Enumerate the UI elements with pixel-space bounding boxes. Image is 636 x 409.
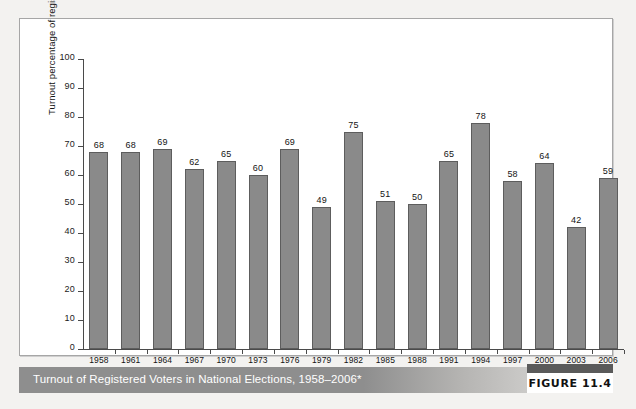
x-tick-label: 1967: [185, 355, 204, 365]
y-tick-label: 10: [65, 313, 75, 323]
y-tick-label: 0: [70, 342, 75, 352]
y-tick-mark: [78, 59, 83, 60]
x-tick-mark: [147, 350, 148, 354]
x-tick-mark: [433, 350, 434, 354]
y-tick-mark: [78, 117, 83, 118]
x-tick-mark: [465, 350, 466, 354]
x-tick-mark: [274, 350, 275, 354]
x-tick-label: 1964: [153, 355, 172, 365]
y-tick-mark: [78, 262, 83, 263]
bar: 49: [312, 207, 331, 349]
x-tick-label: 1988: [407, 355, 426, 365]
y-tick-label: 90: [65, 81, 75, 91]
bar: 58: [503, 181, 522, 349]
bar: 65: [217, 161, 236, 350]
x-tick-mark: [497, 350, 498, 354]
y-tick-mark: [78, 349, 83, 350]
bar: 68: [121, 152, 140, 349]
bar: 42: [567, 227, 586, 349]
y-tick-label: 100: [59, 52, 75, 62]
y-tick-label: 60: [65, 168, 75, 178]
x-tick-mark: [115, 350, 116, 354]
bar-value-label: 60: [253, 163, 263, 173]
y-tick-mark: [78, 146, 83, 147]
y-tick-mark: [78, 88, 83, 89]
bar-value-label: 68: [94, 140, 104, 150]
x-tick-label: 1991: [439, 355, 458, 365]
x-tick-mark: [560, 350, 561, 354]
x-tick-label: 1961: [121, 355, 140, 365]
y-tick-mark: [78, 204, 83, 205]
bar-value-label: 49: [316, 195, 326, 205]
x-tick-label: 1985: [376, 355, 395, 365]
figure-number-box: FIGURE 11.4: [527, 373, 613, 393]
bar: 65: [439, 161, 458, 350]
bar: 59: [599, 178, 618, 349]
x-tick-mark: [369, 350, 370, 354]
figure-number-label: FIGURE 11.4: [528, 377, 611, 390]
y-tick-mark: [78, 175, 83, 176]
bar-value-label: 69: [157, 137, 167, 147]
figure-caption: Turnout of Registered Voters in National…: [33, 373, 362, 385]
bar-value-label: 64: [539, 151, 549, 161]
y-axis-title: Turnout percentage of registered voters: [46, 0, 57, 115]
x-tick-label: 1979: [312, 355, 331, 365]
y-tick-mark: [78, 233, 83, 234]
bar: 60: [249, 175, 268, 349]
bar-value-label: 58: [507, 169, 517, 179]
bar-value-label: 75: [348, 120, 358, 130]
bar: 62: [185, 169, 204, 349]
bar: 75: [344, 132, 363, 350]
bar-value-label: 51: [380, 189, 390, 199]
y-tick-mark: [78, 320, 83, 321]
bar-value-label: 59: [603, 166, 613, 176]
bar: 69: [153, 149, 172, 349]
x-tick-mark: [529, 350, 530, 354]
x-tick-mark: [210, 350, 211, 354]
bar-value-label: 78: [476, 111, 486, 121]
y-tick-mark: [78, 291, 83, 292]
x-tick-label: 1997: [503, 355, 522, 365]
bar-value-label: 65: [444, 149, 454, 159]
x-tick-mark: [401, 350, 402, 354]
bar-value-label: 50: [412, 192, 422, 202]
x-tick-mark: [592, 350, 593, 354]
bar-value-label: 62: [189, 157, 199, 167]
y-tick-label: 50: [65, 197, 75, 207]
y-tick-label: 20: [65, 284, 75, 294]
y-tick-label: 40: [65, 226, 75, 236]
bar: 50: [408, 204, 427, 349]
y-tick-label: 80: [65, 110, 75, 120]
x-tick-label: 1994: [471, 355, 490, 365]
x-tick-label: 1982: [344, 355, 363, 365]
bar: 78: [471, 123, 490, 349]
x-tick-mark: [178, 350, 179, 354]
bar-value-label: 65: [221, 149, 231, 159]
bar: 64: [535, 163, 554, 349]
x-tick-label: 1976: [280, 355, 299, 365]
x-tick-label: 1970: [217, 355, 236, 365]
bar: 69: [280, 149, 299, 349]
x-tick-label: 1958: [89, 355, 108, 365]
x-tick-mark: [338, 350, 339, 354]
y-tick-label: 30: [65, 255, 75, 265]
plot-area: 0102030405060708090100 68195868196169196…: [83, 59, 624, 350]
x-axis-line: [83, 349, 624, 350]
y-tick-label: 70: [65, 139, 75, 149]
bar: 51: [376, 201, 395, 349]
figure-number-accent-bar: [527, 364, 613, 373]
bar: 68: [89, 152, 108, 349]
x-tick-mark: [242, 350, 243, 354]
figure-frame: Turnout percentage of registered voters …: [19, 18, 613, 356]
y-axis-line: [83, 59, 84, 350]
bar-value-label: 68: [126, 140, 136, 150]
x-tick-mark: [624, 350, 625, 354]
x-tick-label: 1973: [248, 355, 267, 365]
x-tick-mark: [306, 350, 307, 354]
bar-value-label: 42: [571, 215, 581, 225]
bar-value-label: 69: [285, 137, 295, 147]
